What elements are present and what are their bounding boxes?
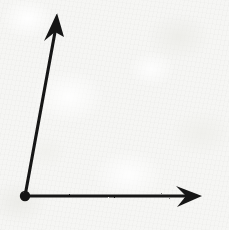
angle-diagram-figure xyxy=(0,0,229,230)
ray-up-shaft xyxy=(25,32,55,196)
diagram-canvas xyxy=(0,0,229,230)
vertex-dot xyxy=(20,191,30,201)
